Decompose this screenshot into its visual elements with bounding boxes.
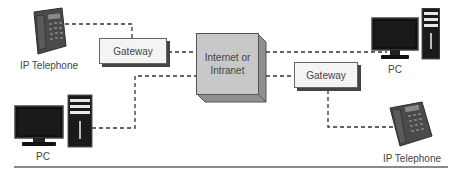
gateway-label: Gateway — [113, 46, 152, 57]
ip-telephone-label: IP Telephone — [20, 60, 78, 71]
pc-bottom-left: PC — [14, 94, 94, 164]
desktop-pc-icon — [370, 8, 440, 66]
desktop-pc-icon — [14, 94, 94, 150]
gateway-left: Gateway — [99, 38, 167, 64]
gateway-label: Gateway — [306, 70, 345, 81]
pc-label: PC — [36, 151, 50, 162]
internet-intranet-box: Internet or Intranet — [196, 33, 268, 103]
ip-telephone-top-left: IP Telephone — [20, 6, 80, 76]
ip-telephone-label: IP Telephone — [383, 153, 441, 164]
internet-label-line1: Internet or — [205, 51, 251, 64]
internet-label-line2: Intranet — [205, 64, 251, 77]
bottom-divider — [14, 166, 448, 168]
pc-label: PC — [388, 64, 402, 75]
gateway-right: Gateway — [294, 62, 358, 88]
ip-telephone-icon — [388, 100, 434, 150]
ip-telephone-bottom-right: IP Telephone — [380, 100, 460, 166]
pc-top-right: PC — [370, 8, 440, 78]
ip-telephone-icon — [26, 6, 70, 58]
